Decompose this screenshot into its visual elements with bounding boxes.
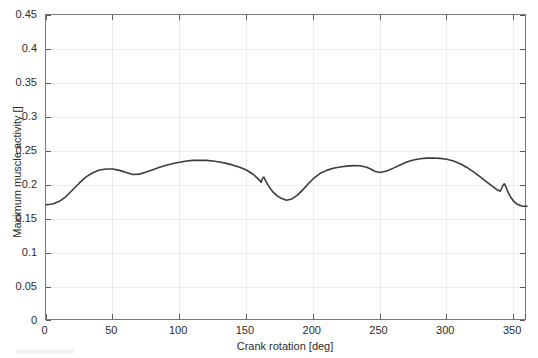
x-tick-label: 150 [236, 324, 254, 336]
scan-artifact [16, 349, 74, 354]
x-tick-label: 300 [436, 324, 454, 336]
x-tick-label: 100 [169, 324, 187, 336]
x-tick-label: 0 [41, 324, 47, 336]
x-tick-label: 250 [369, 324, 387, 336]
plot-area [45, 14, 526, 320]
y-axis-title-text: Maximum muscle activity [] [11, 106, 23, 237]
x-tick-label: 350 [503, 324, 521, 336]
x-tick-label: 50 [105, 324, 117, 336]
x-tick-label: 200 [303, 324, 321, 336]
curve-layer [46, 15, 527, 321]
x-axis-title: Crank rotation [deg] [45, 340, 526, 352]
data-series-line [46, 157, 527, 205]
y-axis-title: Maximum muscle activity [] [11, 92, 23, 252]
chart-figure: 0.45 0.4 0.35 0.3 0.25 0.2 0.15 0.1 0.05… [0, 0, 538, 358]
x-axis-title-text: Crank rotation [deg] [237, 340, 334, 352]
